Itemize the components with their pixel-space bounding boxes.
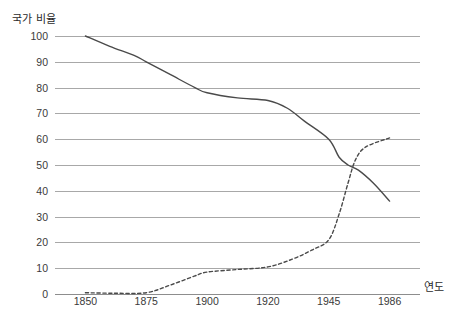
y-tick-50: 50 <box>8 160 48 171</box>
x-tick-1920: 1920 <box>256 296 279 307</box>
y-tick-100: 100 <box>8 31 48 42</box>
plot-area <box>55 36 420 294</box>
y-tick-10: 10 <box>8 263 48 274</box>
series-container <box>55 36 420 294</box>
x-tick-1986: 1986 <box>378 296 401 307</box>
y-tick-80: 80 <box>8 83 48 94</box>
y-tick-0: 0 <box>8 289 48 300</box>
line-chart: 국가 비율 연도 1009080706050403020100 18501875… <box>0 0 470 328</box>
x-tick-1850: 1850 <box>74 296 97 307</box>
x-axis-title: 연도 <box>424 278 445 294</box>
x-tick-1945: 1945 <box>317 296 340 307</box>
x-tick-1875: 1875 <box>135 296 158 307</box>
y-tick-30: 30 <box>8 212 48 223</box>
series-solid-declining <box>85 36 389 201</box>
y-tick-60: 60 <box>8 134 48 145</box>
y-tick-40: 40 <box>8 186 48 197</box>
y-tick-70: 70 <box>8 108 48 119</box>
y-axis-title: 국가 비율 <box>12 10 57 26</box>
y-tick-90: 90 <box>8 57 48 68</box>
y-tick-20: 20 <box>8 237 48 248</box>
gridline-0 <box>55 294 420 295</box>
x-tick-1900: 1900 <box>195 296 218 307</box>
